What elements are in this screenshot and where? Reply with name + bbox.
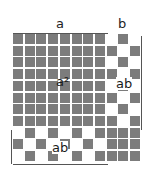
grid-cell (107, 151, 117, 161)
grid-cell (130, 93, 140, 103)
grid-cell (83, 93, 93, 103)
grid-cell (95, 93, 105, 103)
grid-cell (13, 139, 23, 149)
grid-cell (48, 46, 58, 56)
grid-cell (13, 34, 23, 44)
grid-cell (36, 151, 46, 161)
grid-cell (25, 139, 35, 149)
grid-cell (25, 128, 35, 138)
grid-cell (36, 139, 46, 149)
grid-cell (72, 139, 82, 149)
grid-cell (83, 34, 93, 44)
grid-cell (25, 151, 35, 161)
grid-cell (130, 46, 140, 56)
grid-cell (13, 128, 23, 138)
grid-cell (83, 81, 93, 91)
grid-cell (83, 139, 93, 149)
grid-cell (36, 34, 46, 44)
grid-cell (95, 34, 105, 44)
grid-cell (118, 139, 128, 149)
grid-cell (36, 104, 46, 114)
grid-cell (72, 116, 82, 126)
grid-cell (60, 104, 70, 114)
grid-cell (83, 46, 93, 56)
grid-cell (25, 57, 35, 67)
grid-cell (48, 93, 58, 103)
label-ab-bottom: ab (52, 141, 68, 154)
grid-cell (72, 34, 82, 44)
grid-cell (107, 116, 117, 126)
grid-cell (95, 46, 105, 56)
grid-cell (130, 57, 140, 67)
grid-cell (48, 104, 58, 114)
grid-cell (107, 128, 117, 138)
grid-cell (83, 128, 93, 138)
grid-cell (107, 93, 117, 103)
grid-cell (83, 69, 93, 79)
grid-cell (83, 151, 93, 161)
grid-cell (60, 57, 70, 67)
label-b: b (118, 17, 126, 30)
grid-cell (60, 128, 70, 138)
grid-cell (107, 46, 117, 56)
grid-cell (95, 69, 105, 79)
grid-cell (118, 34, 128, 44)
grid-cell (118, 104, 128, 114)
grid-cell (72, 93, 82, 103)
grid-cell (107, 34, 117, 44)
grid-cell (13, 81, 23, 91)
grid-cell (95, 139, 105, 149)
grid-cell (48, 128, 58, 138)
grid-cell (36, 81, 46, 91)
grid-cell (130, 128, 140, 138)
grid-cell (95, 81, 105, 91)
grid-cell (118, 128, 128, 138)
grid-cell (130, 116, 140, 126)
grid-cell (95, 151, 105, 161)
grid-cell (48, 34, 58, 44)
grid-cell (13, 104, 23, 114)
grid-cell (72, 46, 82, 56)
grid-cell (130, 139, 140, 149)
grid-cell (48, 116, 58, 126)
grid-cell (25, 69, 35, 79)
grid-cell (13, 116, 23, 126)
grid-cell (60, 46, 70, 56)
grid-cell (107, 104, 117, 114)
grid-cell (72, 104, 82, 114)
grid-cell (83, 104, 93, 114)
grid-cell (95, 104, 105, 114)
grid-cell (118, 93, 128, 103)
grid-cell (83, 57, 93, 67)
grid-cell (130, 34, 140, 44)
grid-cell (60, 116, 70, 126)
grid-cell (72, 57, 82, 67)
grid-cell (72, 151, 82, 161)
grid-cell (13, 151, 23, 161)
grid-cell (13, 57, 23, 67)
grid-cell (107, 57, 117, 67)
grid-cell (83, 116, 93, 126)
grid-cell (118, 151, 128, 161)
grid-cell (25, 104, 35, 114)
grid-cell (95, 116, 105, 126)
grid-cell (130, 151, 140, 161)
grid-cell (118, 57, 128, 67)
grid-cell (13, 46, 23, 56)
right-edge-line (141, 36, 142, 130)
grid-cell (36, 116, 46, 126)
grid-cell (25, 34, 35, 44)
grid-cell (118, 46, 128, 56)
left-edge-line (11, 130, 12, 164)
grid-cell (48, 57, 58, 67)
grid-cell (130, 104, 140, 114)
grid-cell (60, 34, 70, 44)
label-a-squared: a² (56, 75, 69, 88)
grid-cell (36, 57, 46, 67)
grid-cell (13, 93, 23, 103)
grid-cell (60, 93, 70, 103)
grid-cell (72, 69, 82, 79)
grid-cell (118, 116, 128, 126)
grid-cell (36, 46, 46, 56)
grid-cell (95, 57, 105, 67)
